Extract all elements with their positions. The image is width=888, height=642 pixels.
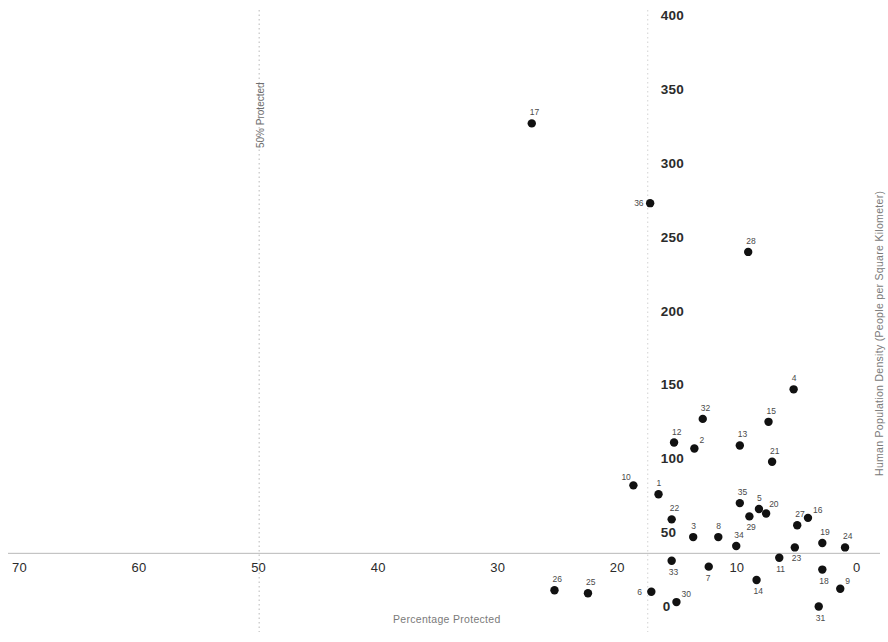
annotation-50-percent-protected: 50% Protected <box>255 82 266 148</box>
data-point <box>672 598 680 606</box>
data-point <box>745 512 753 520</box>
data-point-label: 20 <box>769 499 778 509</box>
data-point <box>836 585 844 593</box>
data-point <box>764 418 772 426</box>
x-tick-label-10: 10 <box>729 560 744 575</box>
data-point-label: 28 <box>746 236 755 246</box>
data-point-label: 2 <box>699 435 704 445</box>
data-point-label: 23 <box>792 553 801 563</box>
data-point-label: 9 <box>845 576 850 586</box>
data-point <box>647 588 655 596</box>
data-point <box>762 509 770 517</box>
data-point <box>768 458 776 466</box>
x-axis-title: Percentage Protected <box>393 613 501 625</box>
data-point-label: 11 <box>776 564 785 574</box>
data-point-label: 15 <box>767 406 776 416</box>
data-point-label: 36 <box>634 198 643 208</box>
y-axis-title: Human Population Density (People per Squ… <box>873 191 885 476</box>
data-point-label: 22 <box>670 503 679 513</box>
x-tick-label-20: 20 <box>610 560 625 575</box>
data-point-label: 1 <box>657 478 662 488</box>
data-point <box>752 576 760 584</box>
x-tick-label-50: 50 <box>251 560 266 575</box>
axes-layer <box>8 10 880 632</box>
data-point-label: 5 <box>757 493 762 503</box>
y-tick-label-400: 400 <box>661 8 684 23</box>
data-point-label: 24 <box>843 531 852 541</box>
data-point-label: 29 <box>746 522 755 532</box>
data-point-label: 8 <box>716 521 721 531</box>
y-tick-label-250: 250 <box>661 230 684 245</box>
data-point-label: 34 <box>734 530 743 540</box>
data-point <box>815 602 823 610</box>
data-point <box>667 515 675 523</box>
data-point <box>714 533 722 541</box>
data-point-label: 7 <box>706 573 711 583</box>
y-tick-label-0: 0 <box>663 599 671 614</box>
y-tick-label-50: 50 <box>661 525 676 540</box>
data-point-label: 4 <box>792 373 797 383</box>
data-point <box>775 554 783 562</box>
y-tick-label-300: 300 <box>661 156 684 171</box>
data-point-label: 21 <box>770 446 779 456</box>
data-point <box>791 543 799 551</box>
x-tick-label-60: 60 <box>132 560 147 575</box>
data-point-label: 18 <box>819 576 828 586</box>
data-point-label: 19 <box>820 527 829 537</box>
data-point <box>736 441 744 449</box>
data-point-label: 33 <box>669 567 678 577</box>
data-point <box>732 542 740 550</box>
data-point <box>584 589 592 597</box>
y-tick-label-350: 350 <box>661 82 684 97</box>
x-tick-label-70: 70 <box>12 560 27 575</box>
data-point-label: 32 <box>701 403 710 413</box>
data-point <box>818 539 826 547</box>
data-point-label: 27 <box>795 509 804 519</box>
data-point <box>629 481 637 489</box>
data-point-label: 13 <box>738 429 747 439</box>
data-point-label: 31 <box>816 613 825 623</box>
y-tick-label-150: 150 <box>661 377 684 392</box>
x-tick-label-30: 30 <box>490 560 505 575</box>
data-point-label: 6 <box>637 587 642 597</box>
data-point-label: 30 <box>681 589 690 599</box>
data-point-label: 14 <box>754 586 763 596</box>
y-tick-label-200: 200 <box>661 304 684 319</box>
plot-canvas <box>0 0 888 642</box>
x-tick-label-0: 0 <box>853 560 860 575</box>
data-point <box>699 415 707 423</box>
data-point <box>818 565 826 573</box>
data-point <box>804 514 812 522</box>
data-point <box>789 385 797 393</box>
data-point <box>528 119 536 127</box>
data-point <box>550 586 558 594</box>
data-point <box>705 562 713 570</box>
points-layer <box>528 119 850 611</box>
data-point-label: 35 <box>738 487 747 497</box>
data-point <box>670 438 678 446</box>
data-point <box>841 543 849 551</box>
data-point-label: 12 <box>672 427 681 437</box>
data-point <box>667 557 675 565</box>
data-point <box>755 505 763 513</box>
data-point <box>654 490 662 498</box>
data-point <box>690 444 698 452</box>
scatter-plot-figure: 706050403020100050100150200250300350400 … <box>0 0 888 642</box>
data-point <box>744 248 752 256</box>
data-point <box>689 533 697 541</box>
data-point-label: 17 <box>530 107 539 117</box>
plot-area: 706050403020100050100150200250300350400 … <box>0 0 888 642</box>
y-tick-label-100: 100 <box>661 451 684 466</box>
data-point <box>646 199 654 207</box>
data-point-label: 16 <box>813 505 822 515</box>
data-point-label: 3 <box>691 521 696 531</box>
data-point-label: 10 <box>621 472 630 482</box>
x-tick-label-40: 40 <box>371 560 386 575</box>
data-point <box>736 499 744 507</box>
data-point-label: 26 <box>552 574 561 584</box>
data-point <box>793 521 801 529</box>
data-point-label: 25 <box>586 577 595 587</box>
